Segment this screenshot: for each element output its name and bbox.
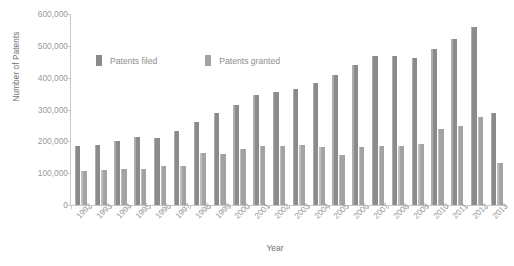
legend-item: Patents granted	[205, 55, 280, 66]
x-tick-label: 1995	[130, 206, 150, 240]
bar-group	[150, 14, 170, 205]
bar-patents-filed	[491, 113, 497, 205]
x-tick-label: 1993	[91, 206, 111, 240]
bar-patents-granted	[81, 171, 87, 205]
bar-patents-granted	[220, 154, 226, 205]
bar-group	[210, 14, 230, 205]
bar-patents-filed	[273, 92, 279, 205]
y-tick-label: 400,000	[16, 73, 68, 83]
x-tick-label: 2003	[289, 206, 309, 240]
legend-label: Patents filed	[110, 56, 157, 66]
x-tick-label: 2004	[309, 206, 329, 240]
y-tick-mark	[66, 141, 71, 142]
y-tick-mark	[66, 46, 71, 47]
bar-patents-granted	[200, 153, 206, 205]
bar-patents-filed	[134, 137, 140, 205]
patents-bar-chart: Number of Patents 600,000500,000400,0003…	[0, 0, 514, 266]
bar-patents-granted	[299, 145, 305, 205]
x-tick-label: 2012	[467, 206, 487, 240]
y-tick-mark	[66, 173, 71, 174]
bar-group	[487, 14, 507, 205]
x-tick-label: 2013	[487, 206, 507, 240]
bar-patents-granted	[458, 126, 464, 205]
x-tick-label: 2008	[388, 206, 408, 240]
bar-patents-filed	[154, 138, 160, 205]
x-tick-label: 1999	[210, 206, 230, 240]
bars-layer	[71, 14, 507, 205]
plot-area	[70, 14, 507, 205]
bar-patents-filed	[372, 56, 378, 205]
y-tick-mark	[66, 78, 71, 79]
x-tick-label: 1997	[170, 206, 190, 240]
bar-group	[408, 14, 428, 205]
x-tick-label: 2011	[447, 206, 467, 240]
bar-patents-granted	[180, 166, 186, 205]
bar-patents-filed	[95, 145, 101, 205]
bar-patents-filed	[451, 39, 457, 205]
bar-patents-granted	[398, 146, 404, 205]
x-tick-label: 1994	[111, 206, 131, 240]
bar-patents-granted	[478, 117, 484, 205]
bar-patents-granted	[121, 169, 127, 205]
bar-group	[190, 14, 210, 205]
bar-patents-filed	[114, 141, 120, 205]
bar-patents-filed	[233, 105, 239, 205]
bar-group	[368, 14, 388, 205]
y-axis-tick-labels: 600,000500,000400,000300,000200,000100,0…	[16, 0, 68, 266]
bar-group	[447, 14, 467, 205]
bar-patents-granted	[280, 146, 286, 205]
x-tick-label: 1992	[71, 206, 91, 240]
x-tick-label: 2000	[230, 206, 250, 240]
bar-patents-filed	[332, 75, 338, 205]
bar-patents-filed	[214, 113, 220, 205]
bar-group	[170, 14, 190, 205]
legend-swatch-icon	[205, 55, 211, 66]
x-tick-label: 2010	[428, 206, 448, 240]
bar-patents-granted	[240, 149, 246, 205]
bar-patents-granted	[161, 166, 167, 205]
x-tick-label: 2002	[269, 206, 289, 240]
y-tick-mark	[66, 110, 71, 111]
bar-patents-filed	[352, 65, 358, 205]
bar-group	[428, 14, 448, 205]
bar-patents-filed	[253, 95, 259, 205]
bar-patents-granted	[497, 163, 503, 205]
bar-patents-filed	[412, 58, 418, 205]
bar-patents-filed	[431, 49, 437, 205]
x-tick-label: 2007	[368, 206, 388, 240]
bar-patents-filed	[293, 89, 299, 205]
bar-patents-granted	[101, 170, 107, 205]
bar-group	[130, 14, 150, 205]
bar-patents-granted	[418, 144, 424, 205]
bar-patents-filed	[392, 56, 398, 205]
x-tick-label: 2001	[249, 206, 269, 240]
bar-patents-granted	[339, 155, 345, 205]
bar-group	[91, 14, 111, 205]
legend-item: Patents filed	[96, 55, 157, 66]
y-tick-label: 100,000	[16, 168, 68, 178]
bar-patents-granted	[359, 147, 365, 205]
x-tick-label: 2009	[408, 206, 428, 240]
x-tick-label: 2006	[348, 206, 368, 240]
bar-patents-filed	[75, 146, 81, 205]
bar-group	[71, 14, 91, 205]
y-tick-mark	[66, 14, 71, 15]
bar-group	[348, 14, 368, 205]
x-axis-title: Year	[0, 243, 514, 253]
y-tick-label: 200,000	[16, 136, 68, 146]
bar-group	[111, 14, 131, 205]
y-tick-label: 600,000	[16, 9, 68, 19]
bar-group	[329, 14, 349, 205]
bar-patents-granted	[438, 129, 444, 205]
bar-patents-granted	[319, 147, 325, 205]
bar-group	[388, 14, 408, 205]
bar-patents-granted	[379, 146, 385, 205]
x-tick-label: 1996	[150, 206, 170, 240]
bar-patents-filed	[313, 83, 319, 205]
bar-patents-filed	[471, 27, 477, 205]
x-tick-label: 1998	[190, 206, 210, 240]
bar-group	[230, 14, 250, 205]
legend-swatch-icon	[96, 55, 102, 66]
bar-patents-filed	[174, 131, 180, 205]
y-tick-label: 300,000	[16, 105, 68, 115]
